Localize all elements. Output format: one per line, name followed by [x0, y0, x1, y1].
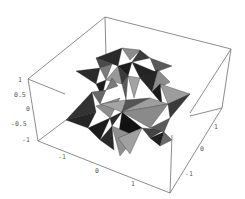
x-tick-neg-1: -1: [58, 153, 66, 161]
z-tick-1: 1: [18, 76, 22, 84]
y-tick-neg-1: -1: [185, 170, 193, 178]
z-tick-neg-1: -1: [22, 136, 30, 144]
y-axis-ticks: -1 0 1: [185, 123, 218, 178]
y-tick-0: 0: [200, 145, 204, 153]
x-tick-1: 1: [131, 180, 135, 188]
x-tick-0: 0: [95, 167, 99, 175]
z-axis-ticks: 1 0.5 0 -0.5 -1: [11, 76, 30, 144]
polyhedron: [66, 48, 190, 156]
3d-plot: 1 0.5 0 -0.5 -1 -1 0 1 -1 0 1: [0, 0, 245, 199]
z-tick-0: 0: [26, 105, 30, 113]
y-tick-1: 1: [214, 123, 218, 131]
z-tick-neg-0.5: -0.5: [11, 120, 27, 128]
z-tick-0.5: 0.5: [14, 91, 26, 99]
x-axis-ticks: -1 0 1: [58, 153, 135, 188]
